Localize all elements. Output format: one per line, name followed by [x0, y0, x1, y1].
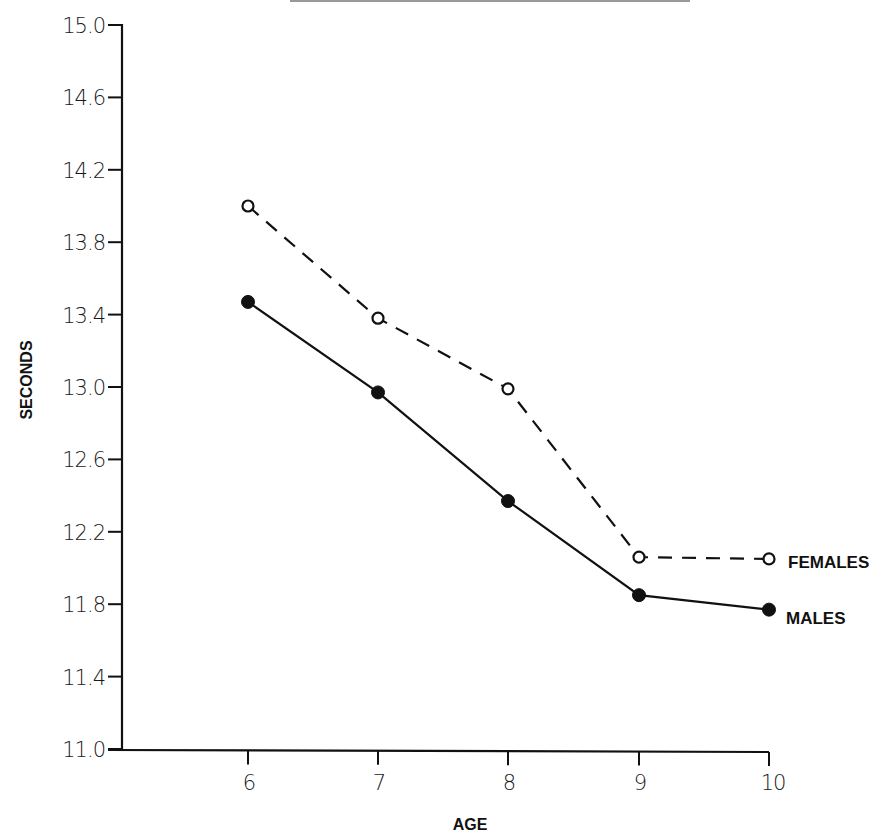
data-point: [764, 553, 775, 564]
title-remnant: [290, 0, 690, 2]
y-axis-title: SECONDS: [18, 340, 35, 419]
x-tick-label: 8: [503, 771, 515, 795]
y-tick-label: 15.0: [62, 14, 105, 38]
series-males: [242, 295, 776, 616]
y-tick-label: 14.6: [62, 86, 105, 110]
y-axis: 15.014.614.213.813.413.012.612.211.811.4…: [62, 14, 122, 762]
y-tick-label: 11.8: [62, 593, 105, 617]
line-chart: 15.014.614.213.813.413.012.612.211.811.4…: [0, 0, 894, 840]
y-tick-label: 14.2: [62, 159, 105, 183]
data-point: [242, 295, 255, 308]
y-tick-label: 12.6: [62, 448, 105, 472]
data-point: [763, 603, 776, 616]
x-ticks: 678910: [243, 750, 786, 795]
y-tick-label: 11.4: [62, 666, 105, 690]
y-tick-label: 11.0: [62, 738, 105, 762]
data-point: [633, 589, 646, 602]
series-label-males: MALES: [786, 609, 846, 628]
x-tick-label: 6: [243, 771, 255, 795]
data-point: [502, 495, 515, 508]
x-axis-title: AGE: [453, 816, 488, 833]
y-tick-label: 13.4: [62, 304, 105, 328]
x-tick-label: 10: [761, 771, 786, 795]
y-tick-label: 12.2: [62, 521, 105, 545]
series-label-females: FEMALES: [788, 553, 869, 572]
x-axis: 678910: [108, 750, 785, 795]
data-point: [503, 383, 514, 394]
x-tick-label: 7: [373, 771, 385, 795]
series-females: [243, 201, 775, 565]
y-tick-label: 13.8: [62, 231, 105, 255]
data-point: [634, 552, 645, 563]
y-ticks: 15.014.614.213.813.413.012.612.211.811.4…: [62, 14, 122, 762]
data-point: [243, 201, 254, 212]
data-point: [372, 386, 385, 399]
series-line: [248, 302, 769, 610]
x-tick-label: 9: [634, 771, 646, 795]
data-point: [373, 313, 384, 324]
y-tick-label: 13.0: [62, 376, 105, 400]
